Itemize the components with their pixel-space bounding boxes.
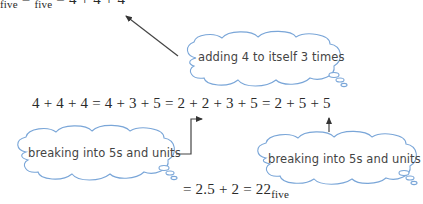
arrow-up-left [126,16,178,56]
cloud-adding-text: adding 4 to itself 3 times [198,50,344,64]
bottom-equation-subscript: five [271,188,289,200]
cloud-breaking-right-text: breaking into 5s and units [268,152,421,166]
cloud-breaking-left-text: breaking into 5s and units [28,146,181,160]
bottom-equation-text: = 2.5 + 2 = 22 [183,181,271,197]
bottom-equation: = 2.5 + 2 = 22five [183,181,289,198]
main-equation: 4 + 4 + 4 = 4 + 3 + 5 = 2 + 2 + 3 + 5 = … [32,95,331,112]
